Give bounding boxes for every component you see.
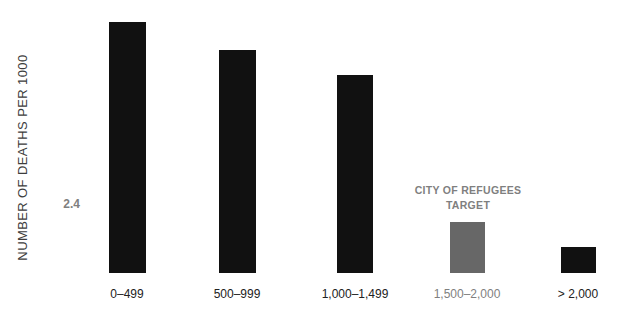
target-bar [450,222,485,273]
x-axis-tick-label: 1,500–2,000 [434,287,501,301]
bar [109,22,146,273]
x-axis-tick-label: 0–499 [110,287,143,301]
plot-area: 0–499500–9991,000–1,4991,500–2,000> 2,00… [0,0,620,327]
bar [337,75,373,273]
bar [561,247,596,273]
x-axis-tick-label: > 2,000 [558,287,598,301]
bar [219,50,256,273]
x-axis-tick-label: 500–999 [214,287,261,301]
deaths-per-1000-bar-chart: NUMBER OF DEATHS PER 1000 2.4 CITY OF RE… [0,0,620,327]
x-axis-tick-label: 1,000–1,499 [322,287,389,301]
